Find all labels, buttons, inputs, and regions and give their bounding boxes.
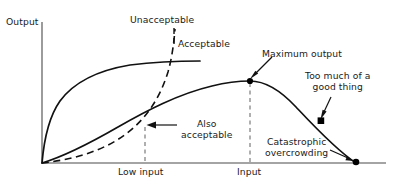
axis-label-output: Output: [6, 16, 39, 27]
annotation-unacceptable: Unacceptable: [130, 14, 194, 25]
annotation-also-acceptable: Also acceptable: [181, 118, 233, 140]
figure-root: Output Unacceptable Acceptable Also acce…: [0, 0, 394, 184]
annotation-acceptable: Acceptable: [178, 38, 230, 49]
curve-acceptable: [42, 61, 200, 163]
annotation-maximum-output: Maximum output: [262, 48, 342, 59]
arrow-too-much-good-thing: [321, 97, 332, 120]
plot-canvas: [0, 0, 394, 184]
marker-catastrophic-overcrowding: [353, 159, 360, 166]
marker-maximum-output: [247, 78, 253, 84]
axis-label-input: Input: [237, 166, 261, 177]
axis-tick-label-low-input: Low input: [118, 166, 164, 177]
arrow-also-acceptable: [147, 121, 178, 128]
annotation-catastrophic-overcrowding: Catastrophic overcrowding: [265, 136, 328, 158]
curve-unacceptable: [42, 29, 175, 163]
arrow-maximum-output: [250, 57, 272, 79]
annotation-too-much-good-thing: Too much of a good thing: [305, 70, 371, 92]
